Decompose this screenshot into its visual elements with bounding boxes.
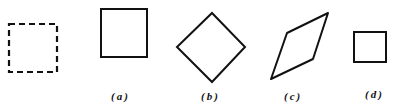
label-c: (c) (284, 90, 302, 102)
parallelogram-c (271, 13, 328, 79)
square-a (101, 9, 147, 57)
original-dashed-square (9, 24, 57, 72)
label-b: (b) (201, 90, 220, 102)
diamond-b (177, 13, 245, 82)
transformations-diagram (0, 0, 395, 110)
small-square-d (354, 32, 386, 62)
label-a: (a) (111, 90, 130, 102)
label-d: (d) (365, 88, 384, 100)
